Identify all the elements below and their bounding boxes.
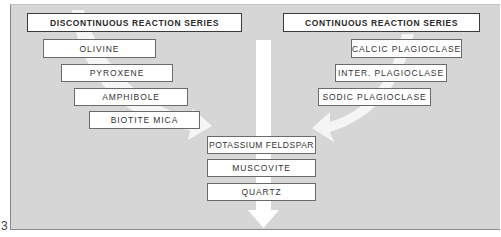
flow-arrows [0, 0, 501, 237]
mineral-sodic-plagioclase: SODIC PLAGIOCLASE [318, 88, 431, 106]
mineral-muscovite: MUSCOVITE [207, 159, 316, 177]
mineral-pyroxene: PYROXENE [61, 64, 173, 82]
mineral-potassium-feldspar: POTASSIUM FELDSPAR [207, 136, 316, 154]
mineral-amphibole: AMPHIBOLE [74, 88, 188, 106]
mineral-quartz: QUARTZ [207, 183, 316, 201]
continuous-header: CONTINUOUS REACTION SERIES [283, 13, 480, 32]
mineral-olivine: OLIVINE [43, 39, 156, 58]
mineral-inter-plagioclase: INTER. PLAGIOCLASE [335, 64, 447, 82]
figure-number: 3 [1, 219, 8, 233]
mineral-calcic-plagioclase: CALCIC PLAGIOCLASE [351, 39, 462, 58]
center-arrow-head-icon [248, 210, 279, 228]
mineral-biotite-mica: BIOTITE MICA [89, 111, 200, 129]
discontinuous-header: DISCONTINUOUS REACTION SERIES [27, 13, 242, 32]
